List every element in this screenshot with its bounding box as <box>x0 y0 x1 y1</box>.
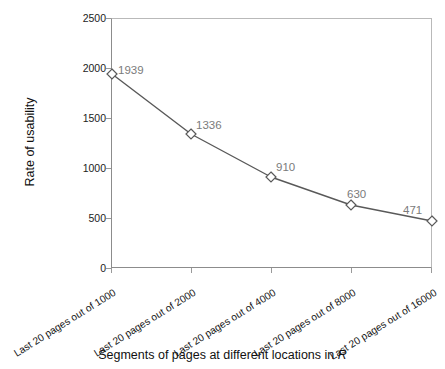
x-axis-title-variable: R <box>338 348 347 362</box>
x-axis-title-text: Segments of pages at different locations… <box>98 348 338 362</box>
y-tick-mark <box>106 168 111 169</box>
data-label: 1336 <box>196 119 222 131</box>
data-label: 471 <box>403 204 422 216</box>
data-label: 630 <box>347 188 366 200</box>
x-tick-mark <box>191 268 192 273</box>
plot-area <box>111 18 432 268</box>
x-tick-mark <box>271 268 272 273</box>
y-tick-mark <box>106 18 111 19</box>
x-tick-mark <box>351 268 352 273</box>
y-tick-label: 500 <box>64 213 106 224</box>
y-tick-mark <box>106 218 111 219</box>
y-tick-label: 2000 <box>64 63 106 74</box>
x-tick-mark <box>431 268 432 273</box>
chart-container: 2500 2000 1500 1000 500 0 1939 1336 910 … <box>0 0 445 369</box>
data-label: 910 <box>276 161 295 173</box>
y-tick-mark <box>106 118 111 119</box>
data-label: 1939 <box>118 64 144 76</box>
x-axis-title: Segments of pages at different locations… <box>0 348 445 362</box>
y-tick-label: 1000 <box>64 163 106 174</box>
y-tick-label: 2500 <box>64 13 106 24</box>
x-tick-mark <box>111 268 112 273</box>
y-tick-label: 1500 <box>64 113 106 124</box>
y-tick-label: 0 <box>64 263 106 274</box>
y-axis-title: Rate of usability <box>23 82 37 202</box>
y-tick-mark <box>106 68 111 69</box>
